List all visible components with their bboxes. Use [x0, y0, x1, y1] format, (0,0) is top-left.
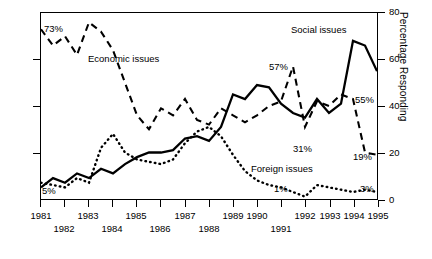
x-label-1993: 1993 — [319, 211, 340, 221]
y-tick-20 — [378, 153, 385, 154]
x-tick-1985 — [136, 200, 137, 207]
series-label-social-issues: Social issues — [291, 25, 346, 35]
x-label-1983: 1983 — [77, 211, 98, 221]
plot-area — [40, 12, 378, 200]
chart-figure: 80 60 40 20 0 Percentage Responding 1981… — [0, 0, 432, 259]
x-tick-1982 — [64, 200, 65, 207]
annotation-31-percent: 31% — [293, 144, 312, 154]
x-tick-1992 — [305, 200, 306, 207]
annotation-1-percent: 1% — [274, 184, 288, 194]
x-label-1987: 1987 — [174, 211, 195, 221]
series-foreign-issues — [41, 127, 377, 197]
annotation-55-percent: 55% — [355, 95, 374, 105]
x-tick-1984 — [112, 200, 113, 207]
x-label-1984: 1984 — [101, 224, 122, 234]
x-tick-1990 — [257, 200, 258, 207]
series-canvas — [41, 13, 377, 199]
x-label-1982: 1982 — [53, 224, 74, 234]
x-label-1985: 1985 — [125, 211, 146, 221]
x-tick-1991 — [281, 200, 282, 207]
x-label-1988: 1988 — [198, 224, 219, 234]
annotation-5-percent: 5% — [42, 186, 56, 196]
x-label-1989: 1989 — [222, 211, 243, 221]
x-tick-1989 — [233, 200, 234, 207]
annotation-3-percent: 3% — [360, 184, 374, 194]
series-economic-issues — [41, 22, 377, 155]
x-tick-1994 — [354, 200, 355, 207]
y-tick-0 — [378, 200, 385, 201]
annotation-73-percent: 73% — [44, 24, 63, 34]
y-tick-80 — [378, 12, 385, 13]
x-tick-1983 — [88, 200, 89, 207]
x-tick-1988 — [209, 200, 210, 207]
economic-issues-line — [41, 22, 377, 155]
annotation-57-percent: 57% — [269, 62, 288, 72]
y-tick-40 — [378, 106, 385, 107]
x-tick-1993 — [330, 200, 331, 207]
series-label-foreign-issues: Foreign issues — [251, 164, 313, 174]
x-label-1994: 1994 — [343, 211, 364, 221]
x-label-1992: 1992 — [294, 211, 315, 221]
x-label-1991: 1991 — [270, 224, 291, 234]
series-label-economic-issues: Economic issues — [88, 54, 159, 64]
x-label-1990: 1990 — [246, 211, 267, 221]
x-label-1986: 1986 — [149, 224, 170, 234]
y-left-tick-60 — [33, 59, 40, 60]
x-label-1981: 1981 — [30, 211, 51, 221]
y-left-tick-20 — [33, 153, 40, 154]
y-axis-title: Percentage Responding — [393, 12, 409, 200]
annotation-19-percent: 19% — [353, 152, 372, 162]
y-tick-60 — [378, 59, 385, 60]
x-label-1995: 1995 — [367, 211, 388, 221]
x-tick-1986 — [160, 200, 161, 207]
y-left-tick-40 — [33, 106, 40, 107]
foreign-issues-line — [41, 127, 377, 197]
x-tick-1981 — [40, 200, 41, 207]
x-tick-1995 — [378, 200, 379, 207]
x-tick-1987 — [185, 200, 186, 207]
